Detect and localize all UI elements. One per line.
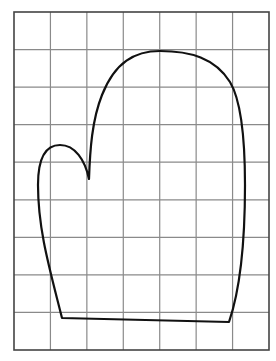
grid bbox=[14, 12, 269, 350]
mitten-outline bbox=[38, 51, 245, 322]
mitten-grid-diagram bbox=[0, 0, 276, 361]
grid-border bbox=[14, 12, 269, 350]
